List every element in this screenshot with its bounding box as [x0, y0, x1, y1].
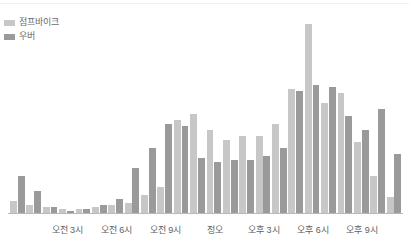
bar-group [26, 10, 42, 213]
bar-uber [116, 199, 123, 213]
bar-uber [34, 191, 41, 213]
bar-jumpbike [108, 205, 115, 213]
bar-jumpbike [141, 195, 148, 213]
bar-jumpbike [387, 197, 394, 213]
bar-uber [296, 91, 303, 213]
bar-jumpbike [10, 201, 17, 213]
bar-uber [263, 156, 270, 213]
plot-area [10, 10, 403, 213]
bar-uber [247, 160, 254, 213]
bar-group [141, 10, 157, 213]
bar-jumpbike [239, 136, 246, 213]
bar-uber [345, 116, 352, 213]
x-axis-tick-label: 오후 3시 [248, 223, 280, 236]
bar-chart: 점프바이크 우버 오전 3시오전 6시오전 9시정오오후 3시오후 6시오후 9… [0, 0, 409, 242]
bar-jumpbike [223, 140, 230, 213]
bar-jumpbike [288, 89, 295, 213]
bar-jumpbike [305, 24, 312, 213]
bar-uber [214, 162, 221, 213]
bar-group [76, 10, 92, 213]
bar-group [256, 10, 272, 213]
bar-jumpbike [338, 93, 345, 213]
x-axis-tick-label: 오전 9시 [150, 223, 182, 236]
bar-group [43, 10, 59, 213]
bar-jumpbike [256, 136, 263, 213]
bar-uber [362, 130, 369, 213]
bar-group [157, 10, 173, 213]
bar-uber [280, 148, 287, 213]
x-axis-tick-labels: 오전 3시오전 6시오전 9시정오오후 3시오후 6시오후 9시 [10, 218, 403, 240]
bar-group [59, 10, 75, 213]
bar-group [92, 10, 108, 213]
bar-group [387, 10, 403, 213]
bar-jumpbike [272, 124, 279, 213]
bar-group [207, 10, 223, 213]
bar-group [10, 10, 26, 213]
bar-uber [313, 85, 320, 213]
bar-uber [182, 126, 189, 213]
x-axis-line [8, 213, 403, 214]
bar-group [354, 10, 370, 213]
bar-uber [231, 160, 238, 213]
bar-uber [329, 87, 336, 213]
bar-jumpbike [174, 120, 181, 213]
x-axis-tick-label: 오후 9시 [346, 223, 378, 236]
top-divider [0, 3, 409, 4]
bar-jumpbike [370, 176, 377, 213]
bar-group [125, 10, 141, 213]
bar-jumpbike [125, 203, 132, 213]
bar-group [321, 10, 337, 213]
bar-jumpbike [157, 187, 164, 213]
bar-jumpbike [207, 130, 214, 213]
bar-uber [18, 176, 25, 213]
bar-uber [394, 154, 401, 213]
x-axis-tick-label: 오전 6시 [101, 223, 133, 236]
bar-jumpbike [190, 114, 197, 213]
bar-jumpbike [321, 103, 328, 213]
bar-uber [165, 124, 172, 213]
bar-group [174, 10, 190, 213]
x-axis-tick-label: 오후 6시 [297, 223, 329, 236]
bar-uber [198, 158, 205, 213]
x-axis-tick-label: 정오 [207, 223, 223, 236]
bar-jumpbike [26, 205, 33, 213]
bar-group [223, 10, 239, 213]
bar-group [370, 10, 386, 213]
bar-group [338, 10, 354, 213]
x-axis-tick-label: 오전 3시 [52, 223, 84, 236]
bar-group [305, 10, 321, 213]
bar-uber [378, 109, 385, 213]
bar-group [239, 10, 255, 213]
bar-group [108, 10, 124, 213]
bar-group [190, 10, 206, 213]
bar-uber [149, 148, 156, 213]
bar-group [272, 10, 288, 213]
bar-jumpbike [354, 142, 361, 213]
bar-series-container [10, 10, 403, 213]
bar-uber [100, 205, 107, 213]
bar-uber [132, 168, 139, 213]
bar-group [288, 10, 304, 213]
